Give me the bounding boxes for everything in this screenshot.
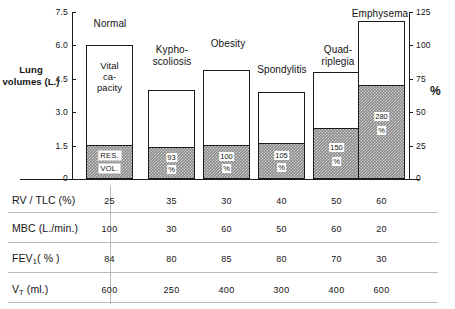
table-cell-fev1-obesity: 85 (203, 254, 250, 264)
y-tick-left-3 (72, 79, 76, 80)
table-rule-2 (8, 242, 438, 243)
table-rule-3 (8, 272, 438, 273)
y-tick-label-left-2: 3.0 (46, 108, 68, 117)
y-tick-left-5 (72, 12, 76, 13)
y-tick-label-left-3: 4.5 (46, 75, 68, 84)
rv-percent-symbol-kyphoscoliosis: % (167, 165, 177, 174)
table-cell-rv-tlc-obesity: 30 (203, 196, 250, 206)
y-tick-label-left-5: 7.5 (46, 8, 68, 17)
rv-percent-value-emphysema: 280 (374, 112, 390, 121)
bar-quadriplegia-residual-volume: 150 % (314, 128, 359, 178)
bar-quadriplegia[interactable]: 150 % (313, 72, 360, 179)
y-tick-left-4 (72, 45, 76, 46)
y-tick-label-right-5: 125 (416, 8, 440, 17)
table-cell-fev1-emphysema: 30 (358, 254, 405, 264)
bar-spondylitis-residual-volume: 105 % (259, 143, 304, 178)
rv-percent-value-kyphoscoliosis: 93 (166, 153, 177, 162)
y-axis-right-line (409, 12, 410, 179)
table-rule-4 (8, 302, 438, 303)
table-cell-mbc-obesity: 60 (203, 224, 250, 234)
table-cell-rv-tlc-normal: 25 (86, 196, 133, 206)
res-vol-label-line1: RES. (97, 150, 121, 161)
chart-plot-area: Lung volumes (L.) 7.5 6.0 4.5 3.0 1.5 0 … (0, 0, 455, 186)
table-cell-fev1-spondylitis: 80 (258, 254, 305, 264)
y-axis-left-line (72, 12, 73, 179)
table-cell-vt-kyphoscoliosis: 250 (148, 285, 195, 295)
table-cell-mbc-quadriplegia: 60 (313, 224, 360, 234)
y-tick-left-2 (72, 112, 76, 113)
y-tick-right-4 (409, 45, 413, 46)
fev1-subscript: 1 (33, 257, 37, 266)
table-rule-1 (8, 212, 438, 213)
table-cell-fev1-normal: 84 (86, 254, 133, 264)
bar-kyphoscoliosis-residual-volume: 93 % (149, 147, 194, 178)
rv-percent-value-obesity: 100 (219, 152, 235, 161)
bar-spondylitis[interactable]: 105 % (258, 92, 305, 179)
y-tick-label-left-4: 6.0 (46, 41, 68, 50)
table-cell-mbc-normal: 100 (86, 224, 133, 234)
table-cell-fev1-quadriplegia: 70 (313, 254, 360, 264)
y-tick-right-3 (409, 79, 413, 80)
data-table: RV / TLC (%) 25 35 30 40 50 60 MBC (L./m… (0, 186, 455, 309)
vt-subscript: T (19, 288, 24, 297)
y-tick-label-right-4: 100 (416, 41, 440, 50)
y-tick-label-right-2: 50 (416, 108, 440, 117)
rv-percent-symbol-quadriplegia: % (332, 157, 342, 166)
table-cell-mbc-spondylitis: 50 (258, 224, 305, 234)
y-tick-right-2 (409, 112, 413, 113)
y-tick-label-left-1: 1.5 (46, 142, 68, 151)
figure-root: Lung volumes (L.) 7.5 6.0 4.5 3.0 1.5 0 … (0, 0, 455, 309)
table-cell-vt-obesity: 400 (203, 285, 250, 295)
y-tick-label-right-0: 0 (416, 174, 440, 183)
bar-normal-residual-volume: RES. VOL. (87, 145, 132, 178)
table-cell-rv-tlc-spondylitis: 40 (258, 196, 305, 206)
y-tick-label-left-0: 0 (46, 174, 68, 183)
y-tick-label-right-1: 25 (416, 142, 440, 151)
bar-obesity-residual-volume: 100 % (204, 145, 249, 178)
vital-capacity-label: Vital ca- pacity (87, 60, 132, 93)
bar-kyphoscoliosis[interactable]: 93 % (148, 90, 195, 179)
table-cell-vt-emphysema: 600 (358, 285, 405, 295)
table-cell-mbc-emphysema: 20 (358, 224, 405, 234)
table-cell-mbc-kyphoscoliosis: 30 (148, 224, 195, 234)
table-cell-rv-tlc-kyphoscoliosis: 35 (148, 196, 195, 206)
table-cell-vt-normal: 600 (86, 285, 133, 295)
rv-percent-value-spondylitis: 105 (274, 151, 290, 160)
table-cell-fev1-kyphoscoliosis: 80 (148, 254, 195, 264)
bar-label-emphysema: Emphysema (342, 8, 418, 20)
y-tick-right-1 (409, 146, 413, 147)
table-cell-vt-spondylitis: 300 (258, 285, 305, 295)
bar-normal[interactable]: Vital ca- pacity RES. VOL. (86, 45, 133, 179)
y-tick-right-0 (409, 179, 413, 180)
rv-percent-symbol-obesity: % (222, 164, 232, 173)
table-cell-rv-tlc-emphysema: 60 (358, 196, 405, 206)
table-cell-rv-tlc-quadriplegia: 50 (313, 196, 360, 206)
y-tick-left-1 (72, 146, 76, 147)
table-cell-vt-quadriplegia: 400 (313, 285, 360, 295)
rv-percent-value-quadriplegia: 150 (329, 143, 345, 152)
bar-obesity[interactable]: 100 % (203, 70, 250, 179)
y-tick-label-right-3: 75 (416, 75, 440, 84)
x-axis-baseline (20, 179, 420, 180)
res-vol-label-line2: VOL. (98, 163, 122, 174)
rv-percent-symbol-emphysema: % (377, 126, 387, 135)
bar-emphysema[interactable]: 280 % (358, 21, 405, 179)
bar-emphysema-residual-volume: 280 % (359, 85, 404, 178)
bar-label-normal: Normal (82, 18, 138, 30)
bar-label-obesity: Obesity (198, 38, 258, 50)
rv-percent-symbol-spondylitis: % (277, 163, 287, 172)
table-row-label-mbc-text: MBC (L./min.) (12, 222, 78, 234)
bar-label-kyphoscoliosis: Kypho- scoliosis (142, 44, 202, 67)
y-tick-left-0 (72, 179, 76, 180)
right-axis-unit-label: % (430, 84, 441, 98)
table-row-label-rv-tlc-text: RV / TLC (%) (12, 194, 75, 206)
